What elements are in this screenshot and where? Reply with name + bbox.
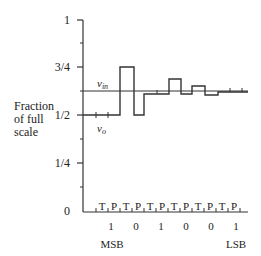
bit-value: 0 (208, 220, 214, 232)
bit-value: 1 (108, 220, 114, 232)
y-axis-title-line-3: scale (14, 125, 38, 139)
y-tick-label: 1/4 (55, 156, 70, 170)
bit-value: 0 (183, 220, 189, 232)
bit-value: 1 (233, 220, 239, 232)
phase-label: P (231, 200, 237, 212)
phase-label: T (171, 200, 178, 212)
y-tick-label: 0 (64, 204, 70, 218)
phase-label: T (147, 200, 154, 212)
phase-label: T (123, 200, 130, 212)
y-tick-label: 1 (64, 13, 70, 27)
phase-label: T (219, 200, 226, 212)
phase-label: T (195, 200, 202, 212)
phase-label: T (99, 200, 106, 212)
y-tick-label: 3/4 (55, 60, 70, 74)
phase-label: P (207, 200, 213, 212)
bit-values: 1 0 1 0 0 1 (108, 220, 239, 232)
phase-label: P (135, 200, 141, 212)
y-axis-title-line-1: Fraction (14, 99, 54, 113)
phase-label: P (159, 200, 165, 212)
lsb-label: LSB (226, 238, 246, 250)
msb-label: MSB (100, 238, 123, 250)
vo-label: vo (97, 122, 106, 136)
vin-label: vin (97, 77, 108, 91)
bit-value: 1 (158, 220, 164, 232)
y-axis-title-line-2: of full (14, 112, 44, 126)
phase-label: P (183, 200, 189, 212)
bit-value: 0 (133, 220, 139, 232)
y-tick-label: 1/2 (55, 108, 70, 122)
sar-conversion-diagram: 1 3/4 1/2 1/4 0 Fraction of full scale v… (0, 0, 261, 256)
phase-label: P (111, 200, 117, 212)
